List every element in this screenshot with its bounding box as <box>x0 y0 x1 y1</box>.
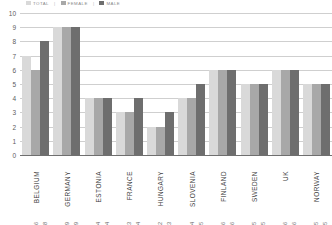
legend-label-female: FEMALE <box>68 1 88 6</box>
chart-legend: TOTAL | FEMALE | MALE <box>26 0 120 7</box>
bar-group-slovenia <box>176 13 207 155</box>
bar-belgium-male <box>40 41 49 155</box>
bar-estonia-male <box>103 98 112 155</box>
bar-value-wrap <box>147 157 156 225</box>
bar-finland-female <box>218 70 227 155</box>
bar-hungary-total <box>147 127 156 155</box>
y-tick-label-7: 7 <box>0 52 16 59</box>
bar-group-germany <box>51 13 82 155</box>
category-label-slovenia: SLOVENIA <box>188 171 195 207</box>
legend-separator-1: | <box>54 1 56 6</box>
bar-estonia-female <box>94 98 103 155</box>
y-tick-label-3: 3 <box>0 109 16 116</box>
bar-finland-male <box>227 70 236 155</box>
label-group-sweden: 55SWEDEN <box>238 157 269 225</box>
legend-item-female: FEMALE <box>61 1 88 6</box>
y-tick-label-1: 1 <box>0 137 16 144</box>
bar-value-wrap <box>209 157 218 225</box>
category-label-germany: GERMANY <box>63 171 70 207</box>
bar-series-container <box>20 13 332 155</box>
bar-slovenia-male <box>196 84 205 155</box>
category-label-belgium: BELGIUM <box>32 171 39 203</box>
bar-norway-total <box>303 84 312 155</box>
bar-value-finland-male: 6 <box>229 157 235 225</box>
bar-chart: TOTAL | FEMALE | MALE 109876543210 68BEL… <box>0 0 332 225</box>
legend-label-total: TOTAL <box>33 1 49 6</box>
bar-value-wrap: 4 <box>134 157 143 225</box>
bar-value-wrap: 5 <box>321 157 330 225</box>
bar-germany-female <box>62 27 71 155</box>
y-tick-label-10: 10 <box>0 10 16 17</box>
label-group-uk: 66UK <box>270 157 301 225</box>
bar-france-male <box>134 98 143 155</box>
label-group-germany: 99GERMANY <box>51 157 82 225</box>
bar-hungary-male <box>165 112 174 155</box>
bar-germany-total <box>53 27 62 155</box>
label-group-belgium: 68BELGIUM <box>20 157 51 225</box>
bar-group-finland <box>207 13 238 155</box>
y-tick-label-6: 6 <box>0 66 16 73</box>
y-tick-label-5: 5 <box>0 81 16 88</box>
category-label-france: FRANCE <box>126 171 133 200</box>
bar-group-belgium <box>20 13 51 155</box>
bar-value-germany-male: 9 <box>73 157 79 225</box>
bar-value-wrap <box>22 157 31 225</box>
bar-france-female <box>125 112 134 155</box>
bar-estonia-total <box>85 98 94 155</box>
category-label-hungary: HUNGARY <box>157 171 164 206</box>
bar-sweden-female <box>250 84 259 155</box>
bar-value-wrap: 6 <box>281 157 290 225</box>
category-label-finland: FINLAND <box>219 171 226 202</box>
legend-item-total: TOTAL <box>26 1 49 6</box>
bar-value-wrap <box>85 157 94 225</box>
bar-value-estonia-male: 4 <box>104 157 110 225</box>
bar-value-wrap <box>241 157 250 225</box>
y-tick-label-9: 9 <box>0 24 16 31</box>
x-axis-line <box>20 155 332 156</box>
legend-swatch-female <box>61 1 66 5</box>
bar-france-total <box>116 112 125 155</box>
bar-group-uk <box>270 13 301 155</box>
bar-hungary-female <box>156 127 165 155</box>
bar-group-hungary <box>145 13 176 155</box>
bar-value-slovenia-male: 5 <box>198 157 204 225</box>
y-tick-label-2: 2 <box>0 123 16 130</box>
bar-group-sweden <box>238 13 269 155</box>
bar-sweden-total <box>241 84 250 155</box>
bar-value-norway-male: 5 <box>322 157 328 225</box>
bar-uk-female <box>281 70 290 155</box>
bar-norway-male <box>321 84 330 155</box>
bar-value-france-male: 4 <box>135 157 141 225</box>
category-label-estonia: ESTONIA <box>95 171 102 202</box>
bar-value-uk-female: 6 <box>282 157 288 225</box>
label-group-finland: 66FINLAND <box>207 157 238 225</box>
label-group-estonia: 44ESTONIA <box>82 157 113 225</box>
bar-group-estonia <box>82 13 113 155</box>
bar-uk-total <box>272 70 281 155</box>
bar-belgium-female <box>31 70 40 155</box>
bar-value-wrap: 5 <box>196 157 205 225</box>
legend-separator-2: | <box>93 1 95 6</box>
legend-swatch-male <box>99 1 104 5</box>
legend-swatch-total <box>26 1 31 5</box>
bar-group-norway <box>301 13 332 155</box>
label-group-hungary: 23HUNGARY <box>145 157 176 225</box>
label-group-slovenia: 45SLOVENIA <box>176 157 207 225</box>
bar-slovenia-female <box>187 98 196 155</box>
label-group-france: 34FRANCE <box>114 157 145 225</box>
bar-value-sweden-male: 5 <box>260 157 266 225</box>
bar-value-wrap: 9 <box>71 157 80 225</box>
y-tick-label-4: 4 <box>0 95 16 102</box>
legend-item-male: MALE <box>99 1 120 6</box>
bar-slovenia-total <box>178 98 187 155</box>
bar-value-uk-male: 6 <box>291 157 297 225</box>
bar-value-wrap <box>303 157 312 225</box>
bar-norway-female <box>312 84 321 155</box>
bar-sweden-male <box>259 84 268 155</box>
y-tick-label-8: 8 <box>0 38 16 45</box>
bar-value-hungary-male: 3 <box>166 157 172 225</box>
bar-value-wrap: 4 <box>103 157 112 225</box>
bar-germany-male <box>71 27 80 155</box>
bar-value-wrap: 6 <box>227 157 236 225</box>
bar-value-wrap: 3 <box>165 157 174 225</box>
